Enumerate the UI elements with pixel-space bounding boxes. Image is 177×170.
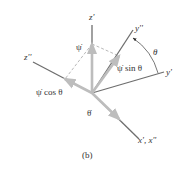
dashed-line-1: [92, 44, 119, 56]
psi-dot-label: ψ̇: [76, 42, 83, 52]
psi-dot-sin-theta-vector-arrow: [92, 56, 119, 93]
psi-dot-sin-theta-label: ψ̇ sin θ: [117, 63, 142, 73]
vectors-group: [65, 44, 119, 119]
figure-caption: (b): [82, 150, 93, 160]
theta-dot-label: θ̇: [87, 108, 92, 118]
y-prime-axis-label: y': [165, 67, 173, 77]
y-prime-axis-line: [92, 72, 164, 93]
theta-dot-vector-arrow: [92, 93, 119, 119]
psi-dot-cos-theta-label: ψ̇ cos θ: [36, 87, 62, 97]
rotation-diagram: z' y'' y' z'' x', x'' ψ̇ ψ̇ sin θ ψ̇ cos…: [0, 0, 177, 170]
z-double-prime-axis-label: z'': [23, 52, 32, 62]
y-double-prime-axis-label: y'': [134, 23, 144, 33]
theta-angle-label: θ: [153, 47, 158, 57]
z-prime-axis-label: z': [88, 12, 96, 22]
psi-dot-cos-theta-vector-arrow: [65, 79, 92, 93]
x-prime-x-double-prime-axis-label: x', x'': [137, 135, 157, 145]
